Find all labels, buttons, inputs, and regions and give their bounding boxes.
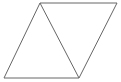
geometry-figure xyxy=(0,0,121,82)
figure-background xyxy=(0,0,121,82)
